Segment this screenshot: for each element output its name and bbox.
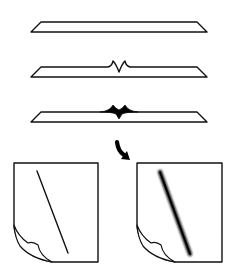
sheet-after	[137, 163, 222, 262]
diagram-canvas	[0, 0, 238, 278]
plate-open-notch	[31, 61, 207, 77]
filled-notch-wedge	[100, 105, 138, 119]
plate-filled-notch	[31, 105, 207, 122]
curved-arrow-down-right-icon	[117, 142, 130, 160]
plate-flat	[31, 22, 207, 32]
sheet-before	[14, 163, 98, 262]
